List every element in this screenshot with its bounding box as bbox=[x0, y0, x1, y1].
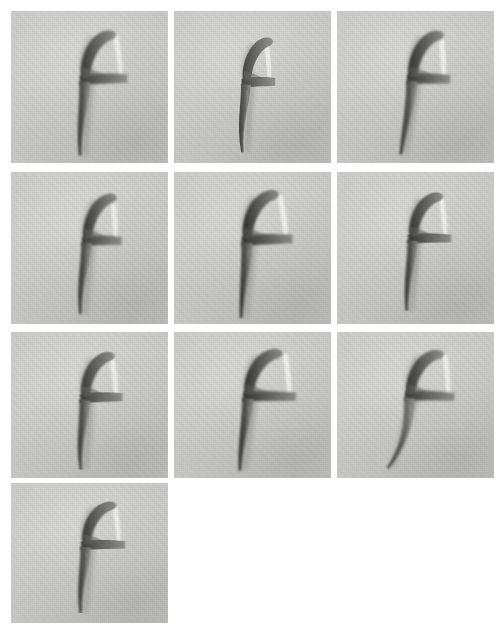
image-tile[interactable]: Floss pick 5 bbox=[174, 172, 331, 324]
floss-pick-graphic bbox=[174, 332, 331, 478]
floss-strand bbox=[109, 198, 120, 239]
floss-strand bbox=[282, 354, 294, 396]
floss-pick-graphic bbox=[11, 332, 168, 478]
image-grid: Floss pick 1 bbox=[0, 0, 504, 633]
image-tile[interactable]: Floss pick 9 bbox=[337, 332, 494, 478]
image-tile[interactable]: Floss pick 1 bbox=[11, 11, 168, 163]
floss-pick-graphic bbox=[337, 11, 494, 163]
floss-pick-graphic bbox=[174, 11, 331, 163]
image-tile[interactable]: Floss pick 10 bbox=[11, 483, 168, 623]
floss-strand bbox=[441, 354, 454, 395]
floss-pick-graphic bbox=[337, 172, 494, 324]
image-tile[interactable]: Floss pick 8 bbox=[174, 332, 331, 478]
image-tile[interactable]: Floss pick 6 bbox=[337, 172, 494, 324]
floss-strand bbox=[109, 356, 120, 396]
floss-strand bbox=[437, 35, 449, 78]
floss-pick-graphic bbox=[11, 172, 168, 324]
floss-pick-graphic bbox=[174, 172, 331, 324]
floss-pick-graphic bbox=[337, 332, 494, 478]
image-tile[interactable]: Floss pick 7 bbox=[11, 332, 168, 478]
floss-strand bbox=[439, 197, 450, 238]
floss-strand bbox=[277, 194, 290, 238]
image-tile[interactable]: Floss pick 3 bbox=[337, 11, 494, 163]
floss-strand bbox=[113, 35, 125, 78]
image-tile[interactable]: Floss pick 2 bbox=[174, 11, 331, 163]
floss-pick-graphic bbox=[11, 11, 168, 163]
floss-pick-graphic bbox=[11, 483, 168, 623]
floss-strand bbox=[112, 506, 122, 544]
image-tile[interactable]: Floss pick 4 bbox=[11, 172, 168, 324]
